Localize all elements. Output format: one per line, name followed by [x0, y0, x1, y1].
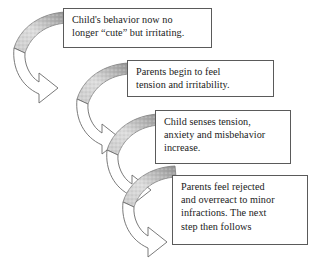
step-box-3: Child senses tension, anxiety and misbeh…	[155, 110, 291, 164]
diagram-canvas: Child's behavior now no longer “cute” bu…	[0, 0, 319, 265]
connector-arrow-4	[123, 166, 176, 257]
step-box-2: Parents begin to feel tension and irrita…	[127, 60, 274, 97]
step-box-1: Child's behavior now no longer “cute” bu…	[63, 8, 212, 48]
step-box-4: Parents feel rejected and overreact to m…	[172, 175, 308, 245]
connector-arrow-1	[14, 12, 67, 103]
